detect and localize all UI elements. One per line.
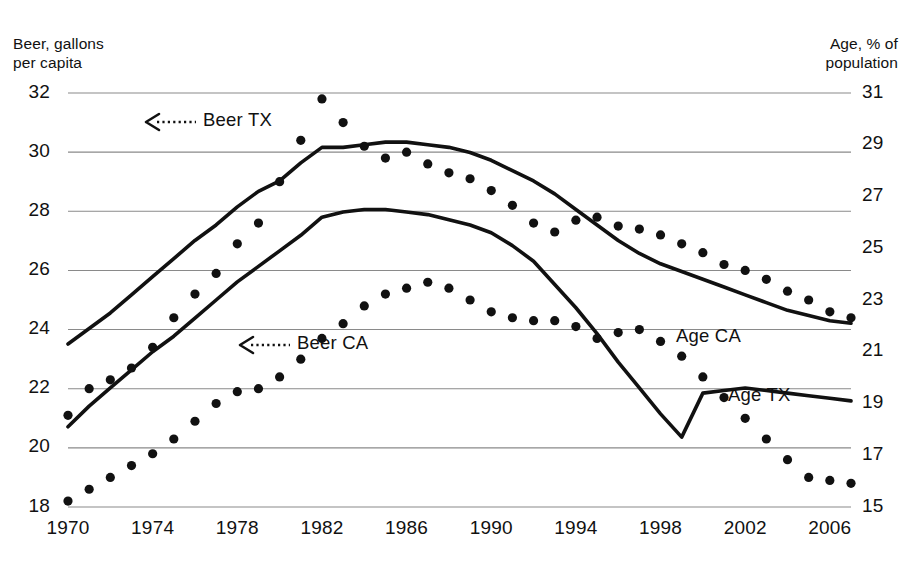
data-point [85, 384, 94, 393]
data-point [63, 496, 72, 505]
series-line [68, 142, 851, 344]
x-axis-tick-1974: 1974 [118, 517, 188, 539]
data-point [127, 461, 136, 470]
y-axis-right-tick-15: 15 [862, 495, 902, 517]
y-axis-right-tick-17: 17 [862, 443, 902, 465]
x-axis-tick-1994: 1994 [541, 517, 611, 539]
data-point [254, 384, 263, 393]
data-point [529, 316, 538, 325]
data-point [169, 434, 178, 443]
y-axis-right-tick-25: 25 [862, 236, 902, 258]
data-point [233, 239, 242, 248]
data-point [846, 313, 855, 322]
data-point [296, 136, 305, 145]
data-point [762, 275, 771, 284]
data-point [423, 278, 432, 287]
data-point [317, 94, 326, 103]
chart-container: Beer, gallons per capita Age, % of popul… [0, 0, 912, 563]
y-axis-right-tick-31: 31 [862, 81, 902, 103]
series-label-age-ca: Age CA [676, 325, 741, 347]
data-point [444, 168, 453, 177]
data-point [741, 266, 750, 275]
data-point [825, 307, 834, 316]
data-point [804, 473, 813, 482]
data-point [635, 325, 644, 334]
x-axis-tick-1986: 1986 [372, 517, 442, 539]
data-point [339, 319, 348, 328]
y-axis-left-tick-26: 26 [10, 258, 50, 280]
x-axis-tick-2006: 2006 [795, 517, 865, 539]
series-age-ca [68, 142, 851, 344]
data-point [63, 411, 72, 420]
data-point [529, 219, 538, 228]
data-point [698, 248, 707, 257]
data-point [614, 328, 623, 337]
data-point [402, 284, 411, 293]
y-axis-left-tick-28: 28 [10, 199, 50, 221]
series-label-beer-tx: Beer TX [203, 109, 272, 131]
data-point [741, 414, 750, 423]
y-axis-left-tick-18: 18 [10, 495, 50, 517]
y-axis-left-tick-20: 20 [10, 435, 50, 457]
x-axis-tick-1998: 1998 [626, 517, 696, 539]
data-point [677, 239, 686, 248]
data-point [677, 352, 686, 361]
data-point [423, 159, 432, 168]
y-axis-left-tick-24: 24 [10, 317, 50, 339]
y-axis-right-tick-27: 27 [862, 184, 902, 206]
data-point [698, 372, 707, 381]
data-point [402, 148, 411, 157]
data-point [85, 485, 94, 494]
y-axis-left-tick-22: 22 [10, 376, 50, 398]
y-axis-left-tick-32: 32 [10, 81, 50, 103]
data-point [233, 387, 242, 396]
data-point [656, 230, 665, 239]
data-point [465, 174, 474, 183]
data-point [508, 201, 517, 210]
x-axis-tick-1970: 1970 [33, 517, 103, 539]
data-point [148, 449, 157, 458]
x-axis-tick-1990: 1990 [456, 517, 526, 539]
data-point [487, 307, 496, 316]
beer-tx-annotation-arrow [146, 114, 196, 130]
data-point [190, 289, 199, 298]
data-point [550, 227, 559, 236]
series-label-beer-ca: Beer CA [297, 332, 368, 354]
x-axis-tick-1978: 1978 [202, 517, 272, 539]
data-point [190, 417, 199, 426]
x-axis-tick-1982: 1982 [287, 517, 357, 539]
series-label-age-tx: Age TX [728, 384, 791, 406]
data-point [360, 301, 369, 310]
data-point [550, 316, 559, 325]
series-beer-tx [63, 94, 855, 420]
chart-plot-area [0, 0, 912, 563]
data-point [296, 355, 305, 364]
data-point [444, 284, 453, 293]
data-point [381, 153, 390, 162]
data-point [381, 289, 390, 298]
data-point [656, 337, 665, 346]
y-axis-left-tick-30: 30 [10, 140, 50, 162]
y-axis-right-tick-29: 29 [862, 132, 902, 154]
data-point [508, 313, 517, 322]
data-point [487, 186, 496, 195]
data-point [825, 476, 834, 485]
data-point [571, 322, 580, 331]
data-point [846, 479, 855, 488]
y-axis-right-tick-19: 19 [862, 391, 902, 413]
data-point [275, 372, 284, 381]
data-point [719, 260, 728, 269]
data-point [783, 287, 792, 296]
data-point [762, 434, 771, 443]
data-point [465, 295, 474, 304]
y-axis-right-tick-23: 23 [862, 288, 902, 310]
data-point [614, 221, 623, 230]
y-axis-right-tick-21: 21 [862, 339, 902, 361]
x-axis-tick-2002: 2002 [710, 517, 780, 539]
data-point [783, 455, 792, 464]
data-point [339, 118, 348, 127]
data-point [212, 269, 221, 278]
data-point [212, 399, 221, 408]
data-point [804, 295, 813, 304]
beer-ca-annotation-arrow [240, 337, 290, 353]
